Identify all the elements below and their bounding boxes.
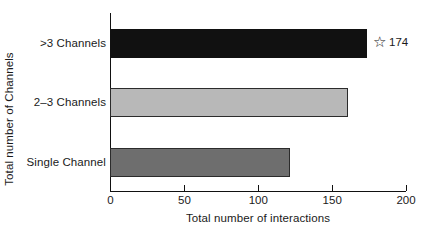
bar-single-channel[interactable] <box>110 148 290 177</box>
x-axis-tick-50 <box>184 185 185 191</box>
bar-value-annotation: ☆ 174 <box>373 34 408 49</box>
bar-chart-figure: Total number of Channels >3 Channels 2–3… <box>0 0 430 238</box>
x-axis-title: Total number of interactions <box>110 212 406 224</box>
x-axis-tick-label-100: 100 <box>238 194 278 206</box>
bar-gt3-channels[interactable] <box>110 29 367 58</box>
y-axis-tick-label-single-channel: Single Channel <box>0 156 106 168</box>
x-axis-tick-label-0: 0 <box>91 194 131 206</box>
star-outline-icon: ☆ <box>373 34 386 49</box>
y-axis-tick-label-2-3-channels: 2–3 Channels <box>0 96 106 108</box>
x-axis-tick-label-200: 200 <box>386 194 426 206</box>
y-axis-tick-label-gt3-channels: >3 Channels <box>0 37 106 49</box>
y-axis-title: Total number of Channels <box>0 0 18 238</box>
x-axis-tick-0 <box>110 185 111 191</box>
x-axis-tick-150 <box>332 185 333 191</box>
x-axis-tick-100 <box>258 185 259 191</box>
x-axis-tick-label-150: 150 <box>312 194 352 206</box>
x-axis-tick-200 <box>406 185 407 191</box>
bar-2-3-channels[interactable] <box>110 88 348 117</box>
x-axis-tick-label-50: 50 <box>164 194 204 206</box>
annotation-value-label: 174 <box>389 36 408 48</box>
